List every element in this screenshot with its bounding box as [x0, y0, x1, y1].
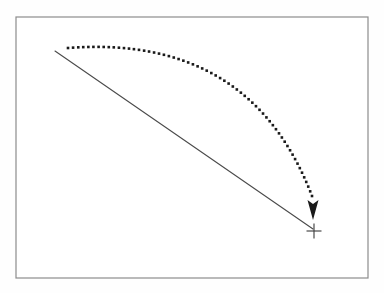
arc-dot — [201, 67, 204, 70]
arc-dot — [286, 145, 289, 148]
arc-dot — [236, 88, 239, 91]
figure-root: Trajectory diagram with dotted arc and s… — [0, 0, 384, 293]
arc-dot — [148, 50, 151, 53]
arc-dot — [87, 46, 90, 49]
arc-dot — [303, 176, 306, 179]
arc-dot — [240, 91, 243, 94]
arc-dot — [123, 47, 126, 50]
arc-dot — [227, 82, 230, 85]
arc-dot — [107, 46, 110, 49]
arc-dot — [153, 51, 156, 54]
arc-dot — [294, 158, 297, 161]
arc-dot — [196, 65, 199, 68]
arc-dot — [92, 46, 95, 49]
arc-dot — [138, 49, 141, 52]
arc-dot — [243, 95, 246, 98]
arc-dot — [275, 128, 278, 131]
arc-dot — [265, 116, 268, 119]
arc-dot — [272, 124, 275, 127]
arc-dot — [172, 56, 175, 59]
arc-dot — [128, 47, 131, 50]
arc-dot — [102, 46, 105, 49]
arc-dot — [163, 53, 166, 56]
arc-dot — [182, 59, 185, 62]
arc-dot — [72, 46, 75, 49]
arc-dot — [255, 105, 258, 108]
arc-dot — [251, 101, 254, 104]
arc-dot — [309, 190, 312, 193]
diagram-canvas: Trajectory diagram with dotted arc and s… — [0, 0, 384, 293]
arc-dot — [168, 55, 171, 58]
arc-dot — [177, 58, 180, 61]
arc-dot — [219, 77, 222, 80]
arc-dot — [262, 112, 265, 115]
arc-dot — [296, 162, 299, 165]
arc-dot — [301, 171, 304, 174]
arc-dot — [133, 48, 136, 51]
arc-dot — [289, 149, 292, 152]
arc-dot — [187, 61, 190, 64]
arc-dot — [305, 181, 308, 184]
arc-dot — [258, 109, 261, 112]
arc-dot — [67, 47, 70, 50]
arc-dot — [247, 98, 250, 101]
arc-dot — [278, 132, 281, 135]
arc-dot — [205, 69, 208, 72]
arc-dot — [214, 74, 217, 77]
arc-dot — [112, 46, 115, 49]
arc-dot — [118, 46, 121, 49]
arc-dot — [307, 185, 310, 188]
arc-dot — [291, 153, 294, 156]
arc-dot — [77, 46, 80, 49]
arc-dot — [192, 63, 195, 66]
arc-dot — [232, 85, 235, 88]
arc-dot — [281, 136, 284, 139]
arc-dot — [210, 72, 213, 75]
arc-dot — [158, 52, 161, 55]
arc-dot — [97, 46, 100, 49]
arc-dot — [283, 140, 286, 143]
arc-dot — [299, 167, 302, 170]
arc-dot — [268, 120, 271, 123]
arc-dot — [143, 49, 146, 52]
arc-dot — [223, 79, 226, 82]
arc-dot — [311, 195, 314, 198]
arc-dot — [82, 46, 85, 49]
diagram-frame-border — [16, 17, 368, 278]
